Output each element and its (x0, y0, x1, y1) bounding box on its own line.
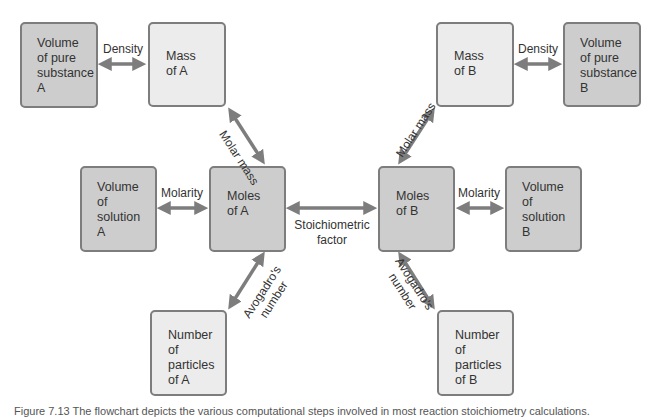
node-text: Volume (580, 36, 639, 51)
node-mass-b: Mass of B (436, 22, 514, 107)
node-text: of A (227, 204, 284, 219)
node-text: of (522, 195, 580, 210)
node-text: B (522, 225, 580, 240)
node-text: Number (455, 328, 512, 343)
node-text: Mass (454, 49, 512, 64)
node-volume-solution-b: Volume of solution B (505, 166, 582, 252)
node-text: of B (454, 64, 512, 79)
node-text: particles (455, 358, 512, 373)
label-molarity-b: Molarity (458, 186, 500, 200)
figure-caption: Figure 7.13 The flowchart depicts the va… (14, 405, 590, 417)
node-mass-a: Mass of A (148, 22, 226, 107)
node-text: of B (455, 373, 512, 388)
node-volume-solution-a: Volume of solution A (80, 166, 157, 252)
node-text: particles (168, 358, 225, 373)
node-text: Number (168, 328, 225, 343)
node-text: Volume (522, 180, 580, 195)
node-text: solution (97, 210, 155, 225)
label-molarity-a: Molarity (161, 186, 203, 200)
node-volume-pure-substance-a: Volume of pure substance A (20, 22, 98, 108)
node-text: of A (166, 64, 224, 79)
label-stoichiometric-factor: Stoichiometric factor (290, 218, 374, 248)
node-text: A (97, 225, 155, 240)
node-moles-b: Moles of B (378, 166, 455, 252)
node-text: substance (580, 66, 639, 81)
node-text: Mass (166, 49, 224, 64)
node-text: Moles (227, 189, 284, 204)
node-text: A (37, 81, 96, 96)
node-text: B (580, 81, 639, 96)
node-text: Volume (97, 180, 155, 195)
node-text: of pure (580, 51, 639, 66)
label-line: Stoichiometric (290, 218, 374, 233)
node-text: solution (522, 210, 580, 225)
node-text: substance (37, 66, 96, 81)
node-text: Moles (396, 189, 453, 204)
node-text: of pure (37, 51, 96, 66)
label-density-a: Density (103, 42, 143, 56)
node-text: of B (396, 204, 453, 219)
node-particles-a: Number of particles of A (150, 310, 227, 396)
node-volume-pure-substance-b: Volume of pure substance B (563, 22, 641, 107)
node-particles-b: Number of particles of B (437, 310, 514, 396)
label-line: factor (290, 233, 374, 248)
node-text: of (168, 343, 225, 358)
node-text: of (97, 195, 155, 210)
node-text: of (455, 343, 512, 358)
label-density-b: Density (518, 42, 558, 56)
node-text: of A (168, 373, 225, 388)
node-text: Volume (37, 36, 96, 51)
